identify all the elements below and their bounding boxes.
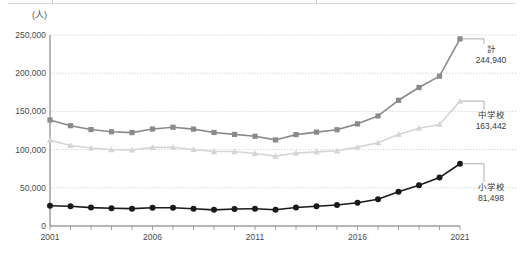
x-tick-label: 2006 [143,232,162,242]
data-point-marker [252,206,258,212]
data-point-marker [334,127,339,132]
data-point-marker [191,206,197,212]
series-label-value: 244,940 [476,55,507,65]
data-point-marker [211,130,216,135]
line-chart-plot: 050,000100,000150,000200,000250,000 2001… [0,0,524,262]
data-point-marker [293,132,298,137]
y-axis-tick-labels: 050,000100,000150,000200,000250,000 [15,30,46,231]
data-point-marker [170,205,176,211]
gridlines-group [50,35,518,188]
x-tick-label: 2016 [348,232,367,242]
data-point-marker [416,182,422,188]
data-point-marker [375,196,381,202]
data-point-marker [88,127,93,132]
y-tick-label: 250,000 [15,30,46,40]
data-point-marker [355,200,361,206]
data-point-marker [416,85,421,90]
series-line-2 [50,164,460,210]
annotation-leader-line [462,164,484,182]
x-tick-label: 2021 [451,232,470,242]
data-point-marker [170,125,175,130]
data-point-marker [457,36,462,41]
series-label-value: 81,498 [478,193,504,203]
y-tick-label: 0 [41,221,46,231]
data-point-marker [150,205,156,211]
x-tick-label: 2001 [41,232,60,242]
series-label-name: 中学校 [478,110,505,120]
y-tick-label: 150,000 [15,106,46,116]
data-point-marker [293,205,299,211]
series-label-value: 163,442 [476,121,507,131]
data-point-marker [273,207,279,213]
data-point-marker [191,127,196,132]
data-point-marker [109,205,115,211]
data-point-marker [314,203,320,209]
data-point-marker [129,130,134,135]
data-point-marker [273,137,278,142]
data-point-marker [252,134,257,139]
data-point-marker [334,202,340,208]
x-axis-group [50,226,460,230]
data-point-marker [232,132,237,137]
data-point-marker [109,129,114,134]
data-point-marker [375,113,380,118]
data-point-marker [314,130,319,135]
series-line-0 [50,39,460,140]
series-end-annotations: 計244,940中学校163,442小学校81,498 [462,39,507,203]
series-label-name: 小学校 [478,182,505,192]
annotation-leader-line [462,39,484,44]
data-point-marker [232,206,238,212]
data-series-group [47,36,463,213]
x-tick-label: 2011 [246,232,265,242]
series-label-name: 計 [487,44,496,54]
x-axis-tick-labels: 20012006201120162021 [41,232,470,242]
data-point-marker [129,206,135,212]
data-point-marker [68,123,73,128]
y-tick-label: 200,000 [15,68,46,78]
annotation-leader-line [462,101,484,110]
y-tick-label: 50,000 [20,183,46,193]
y-tick-label: 100,000 [15,145,46,155]
data-point-marker [47,137,53,143]
data-point-marker [88,205,94,211]
data-point-marker [47,117,52,122]
data-point-marker [211,207,217,213]
data-point-marker [355,121,360,126]
data-point-marker [68,203,74,209]
data-point-marker [396,189,402,195]
data-point-marker [47,203,53,209]
data-point-marker [437,74,442,79]
data-point-marker [396,98,401,103]
chart-container: (人) 050,000100,000150,000200,000250,000 … [0,0,524,262]
data-point-marker [437,175,443,181]
data-point-marker [150,126,155,131]
